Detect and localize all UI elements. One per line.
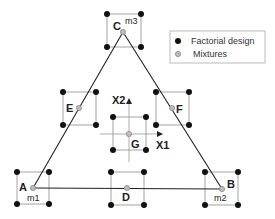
x1-arrow-icon bbox=[157, 131, 163, 137]
factorial-marker-icon bbox=[175, 38, 181, 44]
legend: Factorial design Mixtures bbox=[170, 31, 265, 63]
legend-mixtures-label: Mixtures bbox=[193, 49, 228, 59]
label-m2: m2 bbox=[214, 193, 227, 203]
label-x2: X2 bbox=[112, 94, 125, 106]
legend-factorial-label: Factorial design bbox=[191, 36, 255, 46]
label-b: B bbox=[227, 178, 235, 190]
x2-arrow-icon bbox=[126, 98, 132, 104]
label-m3: m3 bbox=[125, 16, 138, 26]
mixture-factorial-diagram: C m3 E F G X2 X1 A m1 D B m2 Factorial d… bbox=[0, 0, 275, 219]
label-d: D bbox=[122, 191, 130, 203]
label-f: F bbox=[176, 103, 183, 115]
label-a: A bbox=[19, 181, 27, 193]
label-c: C bbox=[113, 20, 121, 32]
label-e: E bbox=[66, 102, 73, 114]
mixture-marker-icon bbox=[175, 51, 180, 56]
label-m1: m1 bbox=[27, 193, 40, 203]
label-g: G bbox=[131, 138, 140, 150]
label-x1: X1 bbox=[156, 139, 169, 151]
